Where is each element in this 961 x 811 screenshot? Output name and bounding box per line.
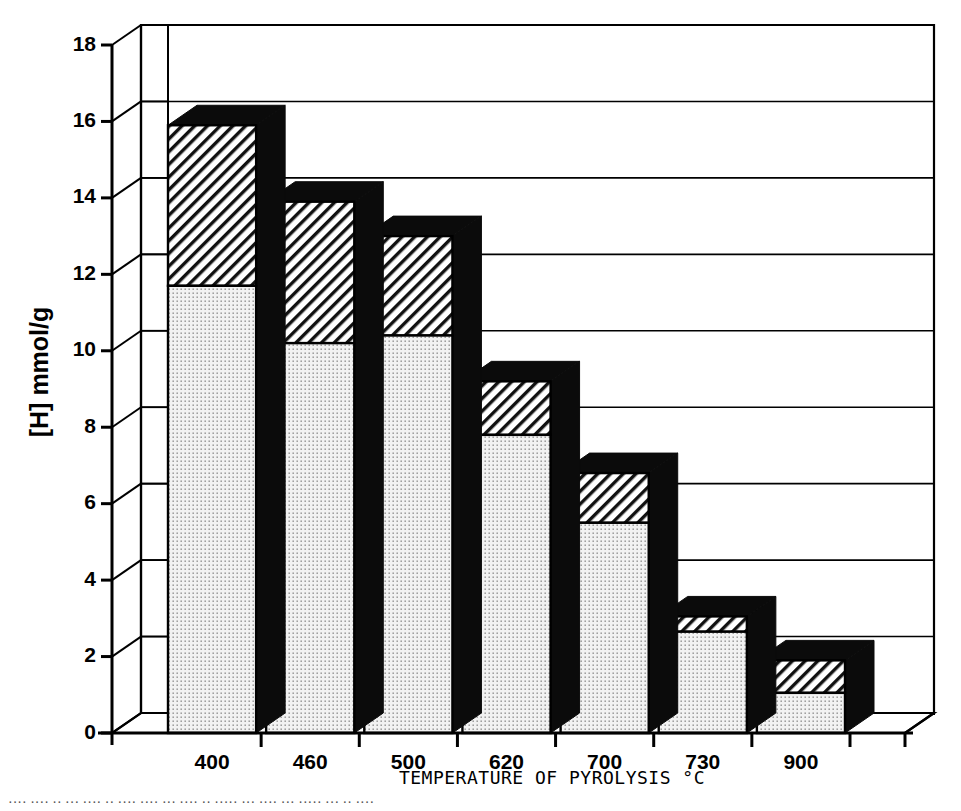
axis-depth-rib (112, 331, 141, 351)
y-axis-tick-label: 2 (84, 643, 96, 666)
bar-side-face (452, 216, 481, 733)
axis-depth-rib (112, 484, 141, 504)
bar-side-face (256, 105, 285, 733)
bar-400[interactable] (168, 105, 285, 733)
y-axis-tick-label: 14 (73, 184, 97, 207)
y-axis-tick-label: 6 (84, 490, 96, 513)
x-axis-title: TEMPERATURE OF PYROLYSIS °C (399, 767, 705, 788)
bar-side-face (649, 453, 678, 733)
y-axis-title: [H] mmol/g (25, 307, 53, 438)
bar-side-face (354, 182, 383, 733)
y-axis-tick-label: 4 (84, 567, 96, 590)
figure-container: 024681012141618400460500620700730900 [H]… (0, 0, 961, 811)
bar-segment-upper-hatched[interactable] (168, 125, 256, 286)
figure-caption: ···· ···· ·· ··· ···· ·· ···· ···· ··· ·… (0, 795, 961, 811)
axis-depth-rib (112, 25, 141, 45)
y-axis-tick-label: 12 (73, 261, 96, 284)
axis-depth-rib (112, 407, 141, 427)
axis-depth-rib (112, 178, 141, 198)
x-axis-tick-label: 400 (195, 750, 230, 773)
bar-side-face (551, 361, 580, 733)
y-axis-tick-label: 8 (84, 414, 96, 437)
axis-depth-rib (112, 254, 141, 274)
axis-depth-rib (112, 101, 141, 121)
y-axis-tick-label: 16 (73, 108, 96, 131)
bar-side-face (747, 596, 776, 733)
x-axis-tick-label: 900 (783, 750, 818, 773)
bar-segment-lower-stippled[interactable] (168, 286, 256, 733)
stacked-bar-chart: 024681012141618400460500620700730900 [H]… (0, 0, 961, 811)
axis-depth-rib (112, 560, 141, 580)
y-axis-tick-label: 18 (73, 32, 97, 55)
axis-depth-rib (112, 637, 141, 657)
y-axis-tick-label: 10 (73, 337, 96, 360)
caption-text: ···· ···· ·· ··· ···· ·· ···· ···· ··· ·… (8, 795, 374, 811)
x-axis-tick-label: 460 (293, 750, 328, 773)
y-axis-tick-label: 0 (84, 720, 96, 743)
